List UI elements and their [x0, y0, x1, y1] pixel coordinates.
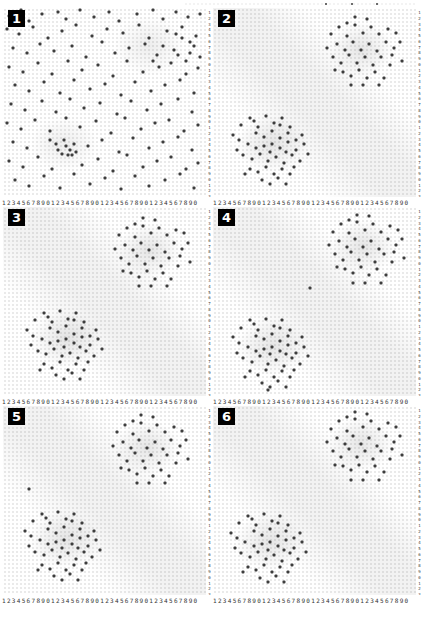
data-point: [91, 556, 94, 559]
data-point: [73, 332, 76, 335]
x-axis-labels: 1234567890123456789012345678901234567890: [213, 398, 424, 405]
y-axis-labels: 1234567890123456789012345678901234567890: [416, 8, 423, 197]
data-point: [366, 471, 369, 474]
data-point: [174, 10, 177, 13]
data-point: [252, 544, 255, 547]
data-point: [38, 42, 41, 45]
data-point: [56, 340, 59, 343]
data-point: [26, 328, 29, 331]
data-point: [160, 264, 163, 267]
data-point: [307, 152, 310, 155]
data-point: [34, 550, 37, 553]
data-point: [341, 258, 344, 261]
data-point: [36, 569, 39, 572]
data-point: [180, 37, 183, 40]
data-point: [390, 260, 393, 263]
data-point: [386, 238, 389, 241]
data-point: [14, 84, 17, 87]
data-point: [354, 16, 357, 19]
data-point: [71, 154, 74, 157]
data-point: [162, 18, 165, 21]
data-point: [64, 325, 67, 328]
data-point: [178, 78, 181, 81]
data-point: [242, 154, 245, 157]
data-point: [164, 178, 167, 181]
data-point: [81, 569, 84, 572]
data-point: [285, 150, 288, 153]
data-point: [73, 512, 76, 515]
data-point: [18, 33, 21, 36]
data-point: [186, 16, 189, 19]
data-point: [158, 65, 161, 68]
data-point: [144, 467, 147, 470]
data-point: [56, 148, 59, 151]
data-point: [125, 154, 128, 157]
data-point: [264, 165, 267, 168]
data-point: [85, 561, 88, 564]
data-point: [246, 514, 249, 517]
data-point: [256, 126, 259, 129]
data-point: [89, 88, 92, 91]
data-point: [36, 61, 39, 64]
data-point: [337, 25, 340, 28]
data-point: [366, 412, 369, 415]
data-point: [256, 328, 259, 331]
data-point: [196, 124, 199, 127]
data-point: [364, 228, 367, 231]
data-point: [398, 41, 401, 44]
data-point: [81, 522, 84, 525]
data-point: [131, 137, 134, 140]
data-point: [58, 556, 61, 559]
data-point: [50, 366, 53, 369]
data-point: [289, 126, 292, 129]
data-point: [158, 226, 161, 229]
data-point: [285, 353, 288, 356]
scatter-panel-4: 4: [213, 207, 416, 396]
data-point: [240, 124, 243, 127]
data-point: [101, 139, 104, 142]
data-point: [354, 410, 357, 413]
data-point: [127, 46, 130, 49]
data-point: [152, 474, 155, 477]
data-point: [268, 385, 271, 388]
data-point: [79, 345, 82, 348]
data-point: [62, 377, 65, 380]
data-point: [372, 223, 375, 226]
data-point: [71, 542, 74, 545]
data-point: [178, 255, 181, 258]
data-point: [85, 349, 88, 352]
data-point: [240, 326, 243, 329]
data-point: [129, 446, 132, 449]
data-point: [160, 469, 163, 472]
data-point: [394, 31, 397, 34]
data-point: [115, 431, 118, 434]
panel-number-badge: 4: [218, 209, 235, 226]
data-point: [50, 548, 53, 551]
data-point: [343, 48, 346, 51]
data-point: [380, 450, 383, 453]
x-axis-labels: 1234567890123456789012345678901234567890: [213, 199, 424, 206]
data-point: [40, 338, 43, 341]
data-point: [362, 245, 365, 248]
data-point: [276, 177, 279, 180]
data-point: [152, 416, 155, 419]
data-point: [79, 537, 82, 540]
data-point: [42, 80, 45, 83]
data-point: [272, 122, 275, 125]
scatter-points-layer: [3, 406, 206, 595]
data-point: [148, 37, 151, 40]
data-point: [295, 342, 298, 345]
data-point: [12, 141, 15, 144]
data-point: [117, 20, 120, 23]
data-point: [254, 569, 257, 572]
data-point: [56, 10, 59, 13]
data-point: [129, 99, 132, 102]
data-point: [140, 241, 143, 244]
data-point: [93, 529, 96, 532]
data-point: [256, 550, 259, 553]
data-point: [285, 529, 288, 532]
data-point: [95, 120, 98, 123]
data-point: [121, 31, 124, 34]
data-point: [242, 571, 245, 574]
data-point: [60, 152, 63, 155]
